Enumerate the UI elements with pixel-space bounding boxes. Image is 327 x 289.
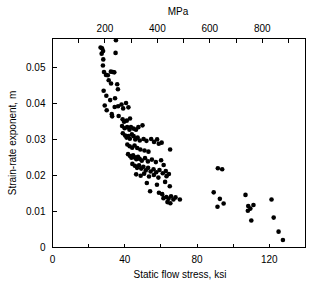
data-point: [164, 174, 169, 179]
data-point: [110, 114, 115, 119]
data-point: [168, 201, 173, 206]
data-point: [115, 82, 120, 87]
scatter-chart-figure: MPa 200400600800 04080120 00.010.020.030…: [0, 0, 327, 289]
data-point: [152, 173, 157, 178]
data-point: [116, 114, 121, 119]
top-tick-label: 400: [149, 23, 166, 34]
data-point: [161, 163, 166, 168]
y-tick-label: 0.04: [26, 98, 46, 109]
y-tick-label: 0.01: [26, 206, 46, 217]
data-points-layer: [98, 38, 285, 242]
data-point: [218, 197, 223, 202]
data-point: [144, 139, 149, 144]
data-point: [243, 193, 248, 198]
data-point: [146, 159, 151, 164]
x-tick-label: 40: [119, 254, 131, 265]
data-point: [211, 190, 216, 195]
chart-canvas: MPa 200400600800 04080120 00.010.020.030…: [0, 0, 327, 289]
x-tick-label: 80: [192, 254, 204, 265]
data-point: [145, 181, 150, 186]
data-point: [113, 96, 118, 101]
data-point: [271, 215, 276, 220]
data-point: [148, 189, 153, 194]
top-axis-title: MPa: [168, 6, 189, 17]
left-axis-tick-labels: 00.010.020.030.040.05: [26, 62, 46, 253]
data-point: [101, 88, 106, 93]
data-point: [249, 218, 254, 223]
plot-frame: [53, 39, 306, 248]
data-point: [99, 51, 104, 56]
data-point: [281, 238, 286, 243]
data-point: [126, 105, 131, 110]
data-point: [215, 204, 220, 209]
data-point: [216, 166, 221, 171]
top-tick-label: 600: [201, 23, 218, 34]
data-point: [156, 175, 161, 180]
data-point: [104, 108, 109, 113]
data-point: [109, 81, 114, 86]
bottom-axis-tick-labels: 04080120: [50, 254, 278, 265]
x-axis-title: Static flow stress, ksi: [134, 269, 227, 280]
data-point: [128, 136, 133, 141]
data-point: [178, 197, 183, 202]
y-tick-label: 0.03: [26, 134, 46, 145]
data-point: [155, 183, 160, 188]
data-point: [147, 174, 152, 179]
data-point: [112, 70, 117, 75]
data-point: [155, 137, 160, 142]
data-point: [102, 103, 107, 108]
data-point: [142, 148, 147, 153]
data-point: [138, 147, 143, 152]
data-point: [168, 147, 173, 152]
data-point: [108, 98, 113, 103]
top-tick-label: 200: [97, 23, 114, 34]
data-point: [124, 101, 129, 106]
top-tick-label: 800: [254, 23, 271, 34]
x-tick-label: 0: [50, 254, 56, 265]
data-point: [121, 106, 126, 111]
x-tick-label: 120: [261, 254, 278, 265]
y-tick-label: 0.05: [26, 62, 46, 73]
data-point: [276, 229, 281, 234]
data-point: [106, 73, 111, 78]
data-point: [269, 197, 274, 202]
data-point: [101, 63, 106, 68]
data-point: [159, 158, 164, 163]
data-point: [113, 51, 118, 56]
data-point: [104, 93, 109, 98]
data-point: [157, 168, 162, 173]
data-point: [154, 160, 159, 165]
data-point: [160, 192, 165, 197]
data-point: [101, 57, 106, 62]
data-point: [128, 116, 133, 121]
data-point: [116, 87, 121, 92]
data-point: [146, 149, 151, 154]
data-point: [159, 140, 164, 145]
data-point: [220, 167, 225, 172]
y-tick-label: 0.02: [26, 170, 46, 181]
data-point: [136, 125, 141, 130]
y-axis-title: Strain-rate exponent, m: [7, 91, 18, 196]
data-point: [150, 157, 155, 162]
data-point: [246, 208, 251, 213]
y-tick-label: 0: [40, 242, 46, 253]
data-point: [221, 201, 226, 206]
data-point: [134, 172, 139, 177]
top-axis-tick-labels: 200400600800: [97, 23, 271, 34]
data-point: [142, 171, 147, 176]
data-point: [140, 123, 145, 128]
axis-tick-marks: [53, 39, 306, 248]
data-point: [167, 184, 172, 189]
data-point: [173, 195, 178, 200]
data-point: [251, 203, 256, 208]
data-point: [163, 180, 168, 185]
data-point: [119, 102, 124, 107]
data-point: [114, 38, 119, 43]
